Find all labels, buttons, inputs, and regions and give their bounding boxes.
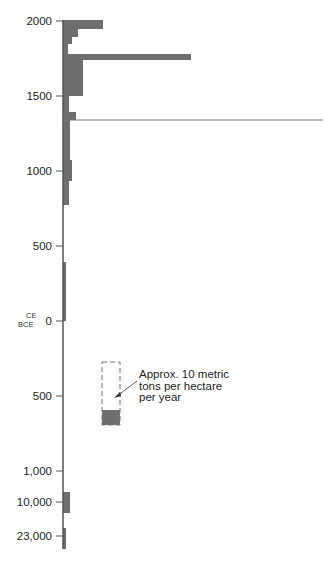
tick-label: 23,000 <box>17 530 52 542</box>
tick-label: 1,000 <box>23 465 52 477</box>
bar <box>63 37 72 44</box>
bar <box>63 112 76 120</box>
tick-label: 1000 <box>26 165 52 177</box>
chart: 20001500100050005001,00010,00023,000 CE … <box>0 0 333 561</box>
estimate-bar-filled <box>102 410 120 425</box>
bars <box>63 20 191 549</box>
annotation-box <box>102 362 120 425</box>
annotation-label: Approx. 10 metric tons per hectare per y… <box>139 369 279 404</box>
bar <box>63 120 70 160</box>
tick-label: 1500 <box>26 90 52 102</box>
tick-label: 10,000 <box>17 496 52 508</box>
bar <box>63 492 70 513</box>
tick-label: 500 <box>33 240 52 252</box>
tick-label: 2000 <box>26 15 52 27</box>
bar <box>63 181 69 205</box>
bar <box>63 96 69 112</box>
era-label-bce: BCE <box>18 320 33 329</box>
tick-label: 500 <box>33 390 52 402</box>
tick-label: 0 <box>46 315 52 327</box>
bar <box>63 160 72 181</box>
bar <box>63 60 83 96</box>
y-ticks: 20001500100050005001,00010,00023,000 <box>17 15 63 542</box>
bar <box>63 20 103 29</box>
arrow-icon <box>114 381 137 398</box>
bar <box>63 29 78 37</box>
era-label-ce: CE <box>26 311 36 320</box>
bar <box>63 54 191 60</box>
